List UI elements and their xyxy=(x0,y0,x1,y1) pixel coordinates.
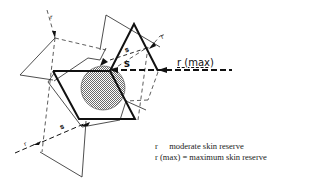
legend-key: r (max) xyxy=(155,152,180,163)
legend: r moderate skin reserve r (max) = maximu… xyxy=(155,141,267,163)
legend-item-r: r moderate skin reserve xyxy=(155,141,267,152)
lower-reserve-line xyxy=(15,123,86,153)
legend-item-r-max: r (max) = maximum skin reserve xyxy=(155,152,267,163)
label-r-max: r (max) xyxy=(177,58,214,68)
legend-description: moderate skin reserve xyxy=(169,141,244,151)
legend-key: r xyxy=(155,141,167,152)
legend-separator: = xyxy=(182,152,187,162)
label-r-upper-left: r xyxy=(50,14,52,20)
label-s-main: s xyxy=(124,59,130,69)
legend-description: maximum skin reserve xyxy=(189,152,266,162)
